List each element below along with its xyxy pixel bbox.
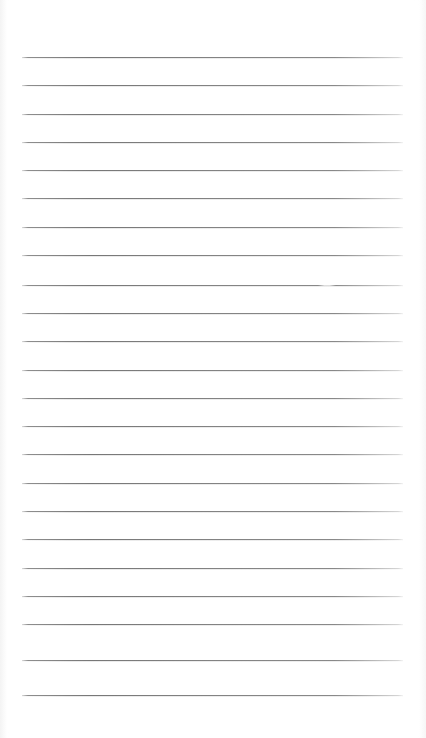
rule-line [22,596,403,597]
scan-gap-artifact [318,283,336,286]
rule-line [22,313,403,314]
rule-line [22,114,403,115]
rule-line [22,227,403,228]
rule-line [22,539,403,540]
rule-line [22,398,403,399]
ruled-page [0,0,426,738]
rule-line [22,142,403,143]
rule-line [22,255,403,256]
rule-line [22,624,403,625]
rule-line [22,695,403,696]
rule-line [22,85,403,86]
rule-line [22,483,403,484]
rule-line [22,57,403,58]
rule-line [22,660,403,661]
ruled-lines-layer [0,0,426,738]
rule-line [22,511,403,512]
rule-line [22,454,403,455]
rule-line [22,568,403,569]
rule-line [22,370,403,371]
rule-line [22,341,403,342]
rule-line [22,198,403,199]
rule-line [22,170,403,171]
rule-line [22,426,403,427]
rule-line [22,285,403,286]
